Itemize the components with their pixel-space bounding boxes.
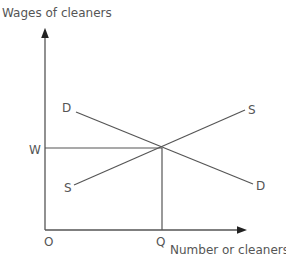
- demand-label-start: D: [62, 101, 71, 115]
- wage-label: W: [29, 143, 41, 157]
- supply-label-start: S: [64, 181, 72, 195]
- demand-label-end: D: [256, 179, 265, 193]
- x-axis-label: Number or cleaners: [170, 243, 286, 257]
- quantity-label: Q: [156, 235, 165, 249]
- origin-label: O: [44, 235, 53, 249]
- labour-market-diagram: Wages of cleaners D D S S W Q O Number o…: [0, 0, 286, 263]
- supply-label-end: S: [248, 103, 256, 117]
- y-axis-label: Wages of cleaners: [2, 6, 112, 20]
